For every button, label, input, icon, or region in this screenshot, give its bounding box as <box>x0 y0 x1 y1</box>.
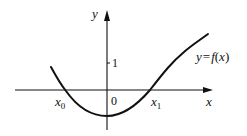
y-tick-label: 1 <box>112 57 118 69</box>
curve-label-eq: = <box>203 49 210 64</box>
y-axis-arrow-icon <box>104 10 110 21</box>
function-graph: y 1 y=f(x) x0 0 x1 x <box>0 0 247 136</box>
curve-label-y: y <box>196 49 202 64</box>
origin-label: 0 <box>111 95 117 107</box>
curve-label: y=f(x) <box>196 50 229 63</box>
x-axis-arrow-icon <box>203 87 213 93</box>
root-x1-base: x <box>151 94 157 109</box>
y-axis-label: y <box>92 7 98 20</box>
root-x1-label: x1 <box>151 95 161 108</box>
root-x0-label: x0 <box>55 95 65 108</box>
root-x0-sub: 0 <box>61 101 66 111</box>
x-axis-label: x <box>206 95 212 108</box>
root-x1-sub: 1 <box>157 101 162 111</box>
root-x0-base: x <box>55 94 61 109</box>
function-curve <box>51 34 208 116</box>
graph-canvas <box>0 0 247 136</box>
curve-label-close: ) <box>225 49 229 64</box>
